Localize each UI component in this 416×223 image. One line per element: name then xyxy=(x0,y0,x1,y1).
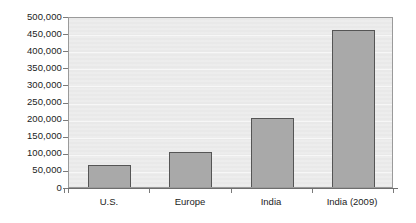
bar xyxy=(251,118,294,187)
plot-area xyxy=(68,17,393,188)
x-axis-origin-tick xyxy=(64,189,65,193)
y-axis-tick-label: 0 xyxy=(0,183,62,193)
x-axis-tick-mark xyxy=(149,189,150,193)
y-axis-tick-mark xyxy=(63,51,68,52)
y-axis-tick-label: 150,000 xyxy=(0,131,62,141)
y-axis-tick-label: 300,000 xyxy=(0,80,62,90)
y-axis-tick-label: 100,000 xyxy=(0,148,62,158)
y-axis-tick-label: 50,000 xyxy=(0,165,62,175)
y-axis-tick-mark xyxy=(63,120,68,121)
bar xyxy=(88,165,131,187)
x-axis-tick-label: Europe xyxy=(175,196,206,208)
bar xyxy=(169,152,212,187)
x-axis-tick-mark xyxy=(68,189,69,193)
x-axis-tick-mark xyxy=(393,189,394,193)
y-axis-tick-mark xyxy=(63,103,68,104)
y-axis-labels: 050,000100,000150,000200,000250,000300,0… xyxy=(0,0,62,223)
y-axis-tick-label: 500,000 xyxy=(0,12,62,22)
y-axis-tick-mark xyxy=(63,34,68,35)
y-axis-tick-mark xyxy=(63,85,68,86)
bar-chart: 050,000100,000150,000200,000250,000300,0… xyxy=(0,0,416,223)
y-axis-tick-label: 250,000 xyxy=(0,97,62,107)
x-axis-tick-mark xyxy=(231,189,232,193)
y-axis-tick-mark xyxy=(63,17,68,18)
x-axis-tick-label: India (2009) xyxy=(327,196,378,208)
y-axis-tick-mark xyxy=(63,137,68,138)
x-axis-tick-label: U.S. xyxy=(100,196,118,208)
y-axis-tick-mark xyxy=(63,68,68,69)
y-axis-tick-label: 350,000 xyxy=(0,63,62,73)
x-axis-tick-label: India xyxy=(261,196,282,208)
bar xyxy=(332,30,375,187)
x-axis-tick-mark xyxy=(312,189,313,193)
y-axis-tick-mark xyxy=(63,171,68,172)
y-axis-tick-label: 450,000 xyxy=(0,29,62,39)
y-axis-tick-label: 200,000 xyxy=(0,114,62,124)
y-axis-tick-label: 400,000 xyxy=(0,46,62,56)
y-axis-tick-mark xyxy=(63,154,68,155)
